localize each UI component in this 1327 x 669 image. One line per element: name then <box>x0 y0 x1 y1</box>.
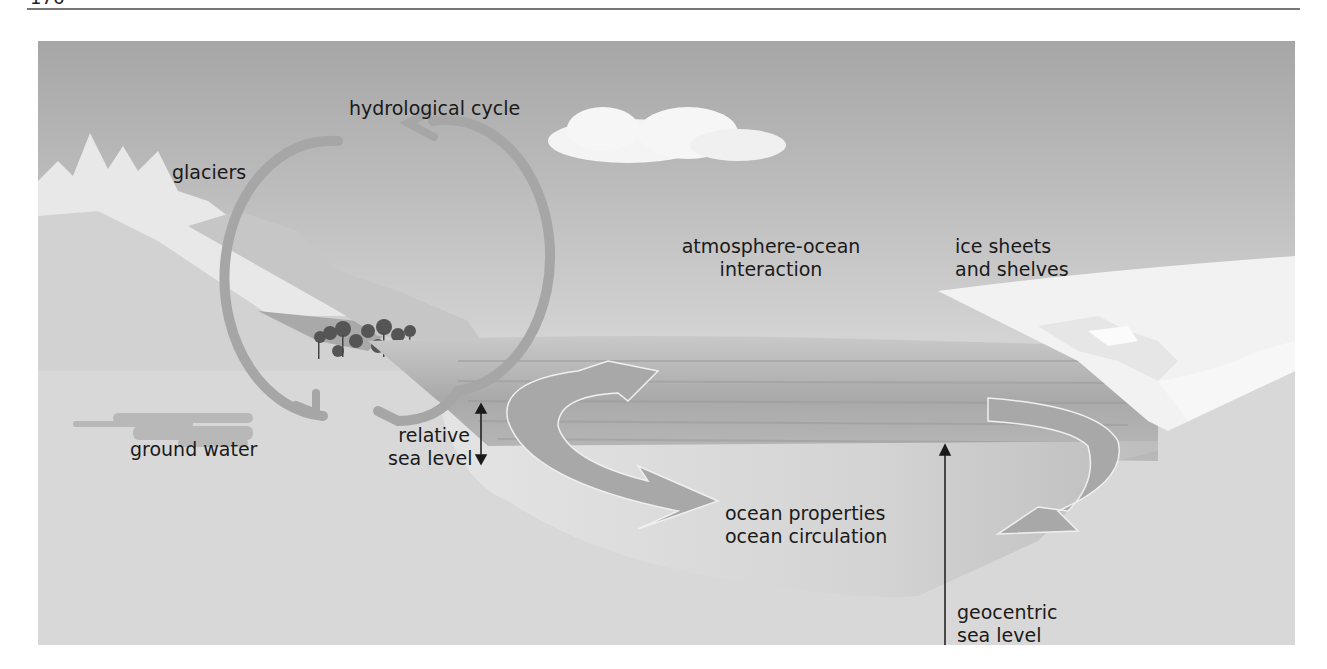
label-ground-water: ground water <box>130 438 257 461</box>
label-relative-sea-level: relative sea level <box>388 424 470 470</box>
label-ice-sheets-line2: and shelves <box>955 258 1069 281</box>
label-ice-sheets-line1: ice sheets <box>955 235 1069 258</box>
label-atmosphere-ocean-line2: interaction <box>666 258 876 281</box>
sea-level-diagram: hydrological cycle glaciers ground water… <box>38 41 1295 645</box>
label-ocean-properties-circulation: ocean properties ocean circulation <box>725 502 887 548</box>
label-ocean-circulation: ocean circulation <box>725 525 887 548</box>
label-relative-sea-level-line1: relative <box>388 424 470 447</box>
label-geocentric-line2: sea level <box>957 624 1058 647</box>
page-number: 176 <box>30 0 64 8</box>
diagram-illustration <box>38 41 1295 645</box>
label-relative-sea-level-line2: sea level <box>388 447 470 470</box>
label-hydrological-cycle: hydrological cycle <box>349 97 520 120</box>
label-geocentric-line1: geocentric <box>957 601 1058 624</box>
label-geocentric-sea-level: geocentric sea level <box>957 601 1058 647</box>
header-rule <box>27 8 1300 10</box>
label-atmosphere-ocean-interaction: atmosphere-ocean interaction <box>666 235 876 281</box>
label-glaciers: glaciers <box>172 161 246 184</box>
label-atmosphere-ocean-line1: atmosphere-ocean <box>666 235 876 258</box>
label-ice-sheets-and-shelves: ice sheets and shelves <box>955 235 1069 281</box>
label-ocean-properties: ocean properties <box>725 502 887 525</box>
